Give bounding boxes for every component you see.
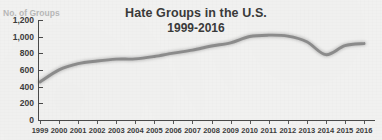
x-tick-label-2012: 2012 (279, 126, 296, 135)
x-tick-mark-2012 (288, 121, 289, 124)
x-tick-label-1999: 1999 (32, 126, 49, 135)
x-tick-label-2004: 2004 (127, 126, 144, 135)
x-tick-label-2007: 2007 (184, 126, 201, 135)
x-tick-mark-1999 (40, 121, 41, 124)
x-tick-label-2000: 2000 (51, 126, 68, 135)
x-tick-label-2001: 2001 (70, 126, 87, 135)
x-tick-mark-2004 (135, 121, 136, 124)
x-tick-label-2016: 2016 (356, 126, 373, 135)
y-tick-mark (38, 37, 43, 38)
x-tick-mark-2005 (154, 121, 155, 124)
x-tick-mark-2000 (59, 121, 60, 124)
chart-title-block: Hate Groups in the U.S. 1999-2016 (96, 6, 296, 36)
x-tick-mark-2006 (173, 121, 174, 124)
x-tick-mark-2007 (192, 121, 193, 124)
x-tick-label-2011: 2011 (261, 126, 277, 135)
y-tick-label: 600 (20, 65, 34, 75)
x-tick-label-2005: 2005 (146, 126, 163, 135)
x-tick-label-2014: 2014 (318, 126, 335, 135)
x-tick-label-2002: 2002 (89, 126, 106, 135)
x-tick-label-2006: 2006 (165, 126, 182, 135)
x-tick-mark-2016 (364, 121, 365, 124)
y-tick-mark (38, 53, 43, 54)
x-tick-mark-2014 (326, 121, 327, 124)
chart-title: Hate Groups in the U.S. (96, 6, 296, 21)
x-tick-label-2003: 2003 (108, 126, 125, 135)
x-tick-mark-2008 (212, 121, 213, 124)
x-tick-mark-2003 (116, 121, 117, 124)
y-tick-label: 0 (29, 115, 34, 125)
x-tick-mark-2001 (78, 121, 79, 124)
y-axis-label: No. of Groups (3, 8, 60, 18)
y-tick-mark (38, 70, 43, 71)
y-tick-mark (38, 103, 43, 104)
y-tick-label: 1,000 (13, 32, 34, 42)
x-tick-mark-2015 (345, 121, 346, 124)
x-tick-mark-2011 (269, 121, 270, 124)
x-tick-label-2013: 2013 (298, 126, 315, 135)
x-tick-label-2015: 2015 (337, 126, 354, 135)
x-tick-mark-2002 (97, 121, 98, 124)
x-tick-label-2009: 2009 (222, 126, 239, 135)
chart-screenshot: Hate Groups in the U.S. 1999-2016 No. of… (0, 0, 382, 140)
x-axis-line (38, 120, 375, 121)
y-tick-label: 200 (20, 98, 34, 108)
chart-subtitle: 1999-2016 (96, 21, 296, 36)
y-tick-label: 400 (20, 82, 34, 92)
x-tick-label-2008: 2008 (203, 126, 220, 135)
y-tick-label: 800 (20, 48, 34, 58)
x-tick-label-2010: 2010 (241, 126, 258, 135)
y-tick-mark (38, 20, 43, 21)
x-tick-mark-2013 (307, 121, 308, 124)
y-tick-mark (38, 87, 43, 88)
x-tick-mark-2010 (250, 121, 251, 124)
x-tick-mark-2009 (231, 121, 232, 124)
